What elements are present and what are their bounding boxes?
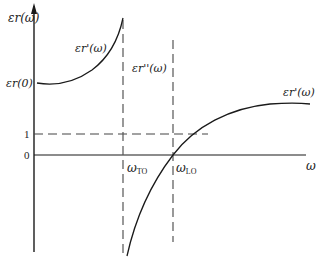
y-axis-label: εr(ω): [8, 11, 40, 25]
dielectric-diagram: εr(ω) εr(0) 1 0 εr'(ω) εr''(ω) εr'(ω) ωT…: [0, 0, 327, 261]
omega-to-label: ωTO: [127, 161, 148, 176]
right-branch-label: εr'(ω): [283, 86, 315, 99]
y-tick-zero: 0: [24, 149, 30, 161]
x-axis-label: ω: [306, 159, 316, 173]
y-tick-one: 1: [24, 128, 30, 140]
y-tick-eps0: εr(0): [6, 77, 33, 90]
pole-label: εr''(ω): [132, 62, 167, 75]
left-branch-label: εr'(ω): [75, 42, 107, 55]
right-branch-curve: [127, 103, 310, 256]
omega-lo-label: ωLO: [176, 161, 197, 176]
